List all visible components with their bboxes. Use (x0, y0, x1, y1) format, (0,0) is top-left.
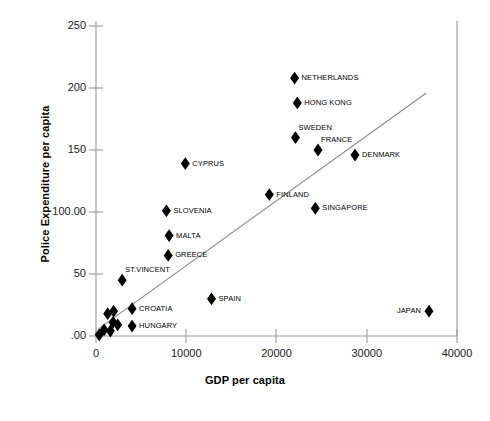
x-tick-label: 30000 (327, 347, 407, 359)
y-tick-label: 100.00 (52, 205, 86, 217)
data-point-label: ST.VINCENT (125, 265, 170, 274)
data-point-marker (290, 72, 299, 85)
data-point-marker (293, 97, 302, 110)
data-point-label: SLOVENIA (173, 206, 211, 215)
data-point-label: JAPAN (0, 306, 421, 315)
x-axis-title: GDP per capita (0, 374, 490, 386)
data-point-marker (181, 157, 190, 170)
x-tick-label: 20000 (237, 347, 317, 359)
data-point-label: CYPRUS (192, 159, 224, 168)
y-axis-title: Police Expenditure per capita (39, 54, 51, 314)
data-point-marker (265, 188, 274, 201)
data-point-marker (314, 144, 323, 157)
data-point-marker (118, 274, 127, 287)
y-tick-label: 50 (74, 267, 86, 279)
data-point-label: SPAIN (219, 294, 241, 303)
data-point-label: HUNGARY (139, 321, 177, 330)
data-point-marker (311, 202, 320, 215)
trend-line (99, 93, 427, 329)
data-point-marker (207, 292, 216, 305)
y-tick-label: 150 (68, 143, 86, 155)
data-point-marker (165, 229, 174, 242)
y-tick-label: .00 (71, 329, 86, 341)
data-point-label: MALTA (176, 231, 200, 240)
data-point-label: HONG KONG (304, 98, 352, 107)
data-point-label: DENMARK (362, 150, 400, 159)
data-point-label: SINGAPORE (322, 203, 368, 212)
y-tick-label: 200 (68, 81, 86, 93)
data-point-marker (351, 149, 360, 162)
data-point-marker (425, 305, 434, 318)
data-point-label: FRANCE (321, 135, 352, 144)
x-tick-label: 0 (56, 347, 136, 359)
data-point-marker (164, 249, 173, 262)
data-point-marker (162, 204, 171, 217)
axis-lines (96, 21, 457, 336)
data-markers (95, 72, 434, 342)
data-point-label: GREECE (175, 250, 207, 259)
x-tick-label: 10000 (146, 347, 226, 359)
x-tick-label: 40000 (417, 347, 490, 359)
data-point-label: FINLAND (276, 190, 309, 199)
data-point-marker (128, 320, 137, 333)
data-point-label: SWEDEN (298, 123, 332, 132)
data-point-marker (291, 131, 300, 144)
scatter-chart: Police Expenditure per capita GDP per ca… (0, 0, 490, 421)
data-point-label: NETHERLANDS (302, 73, 359, 82)
y-tick-label: 250 (68, 19, 86, 31)
